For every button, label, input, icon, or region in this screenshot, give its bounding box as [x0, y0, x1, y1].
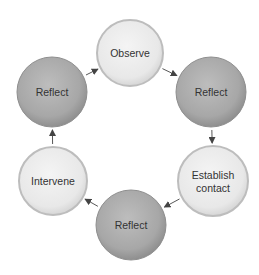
- node-reflect-bottom: Reflect: [96, 190, 166, 260]
- node-label: Observe: [110, 47, 150, 59]
- node-intervene: Intervene: [19, 147, 87, 215]
- nodes-layer: ObserveReflectEstablishcontactReflectInt…: [17, 20, 248, 260]
- node-observe: Observe: [97, 20, 163, 86]
- cycle-diagram: ObserveReflectEstablishcontactReflectInt…: [0, 0, 259, 275]
- node-establish-contact: Establishcontact: [178, 146, 248, 216]
- arrow-reflect-bottom-to-intervene: [85, 199, 98, 206]
- arrow-observe-to-reflect-right: [162, 69, 176, 76]
- node-label: contact: [196, 182, 230, 194]
- arrow-establish-contact-to-reflect-bottom: [164, 199, 179, 207]
- node-label: Establish: [192, 169, 235, 181]
- node-label: Reflect: [115, 219, 148, 231]
- node-label: Reflect: [195, 86, 228, 98]
- arrow-reflect-left-to-observe: [86, 69, 98, 75]
- node-reflect-right: Reflect: [176, 57, 246, 127]
- node-label: Reflect: [36, 86, 69, 98]
- node-label: Intervene: [31, 175, 75, 187]
- node-reflect-left: Reflect: [17, 57, 87, 127]
